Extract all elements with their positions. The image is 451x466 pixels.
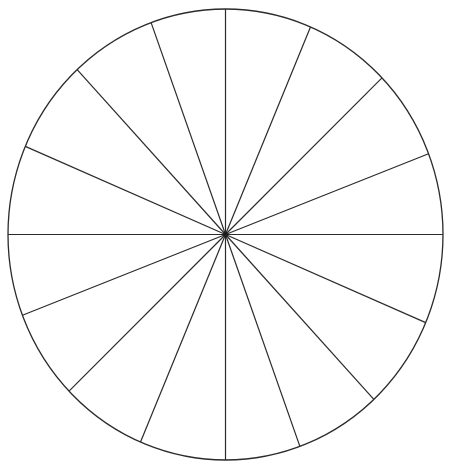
sector-circle-figure: Circle divided into equal sectors [0, 0, 451, 466]
center-point [223, 232, 228, 237]
